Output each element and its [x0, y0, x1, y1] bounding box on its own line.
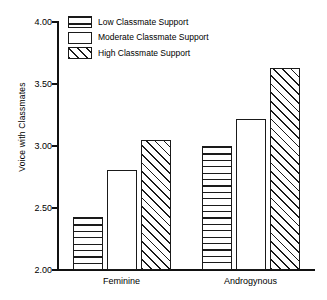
y-axis-tick-label: 3.50	[8, 80, 52, 89]
y-axis-tick-mark	[52, 21, 58, 23]
x-axis-category-label: Feminine	[103, 276, 140, 286]
y-axis-tick-mark	[52, 83, 58, 85]
y-axis-tick-label: 3.00	[8, 142, 52, 151]
legend-swatch-icon	[68, 47, 92, 59]
legend-item: High Classmate Support	[68, 47, 209, 59]
legend-item: Moderate Classmate Support	[68, 32, 209, 44]
y-axis-tick-mark	[52, 207, 58, 209]
legend-swatch-icon	[68, 16, 92, 28]
bar	[73, 217, 103, 270]
bar	[141, 140, 171, 270]
legend-item-label: Moderate Classmate Support	[98, 33, 209, 42]
bar	[107, 170, 137, 270]
chart-legend: Low Classmate SupportModerate Classmate …	[68, 16, 209, 59]
x-axis-category-label: Androgynous	[224, 276, 277, 286]
legend-swatch-icon	[68, 32, 92, 44]
bar-chart-figure: Voice with Classmates 2.002.503.003.504.…	[0, 0, 327, 300]
y-axis-tick-label: 2.00	[8, 266, 52, 275]
legend-item: Low Classmate Support	[68, 16, 209, 28]
y-axis-tick-mark	[52, 145, 58, 147]
legend-item-label: Low Classmate Support	[98, 18, 188, 27]
y-axis-tick-label: 2.50	[8, 204, 52, 213]
legend-item-label: High Classmate Support	[98, 49, 190, 58]
y-axis-tick-labels: 2.002.503.003.504.00	[0, 0, 52, 300]
bar	[236, 119, 266, 270]
y-axis-tick-label: 4.00	[8, 18, 52, 27]
plot-area	[57, 22, 315, 270]
bar	[270, 68, 300, 270]
y-axis-tick-mark	[52, 269, 58, 271]
bar	[202, 146, 232, 270]
